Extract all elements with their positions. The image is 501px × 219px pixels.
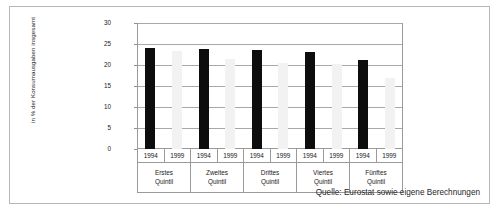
- y-tick-label: 30: [85, 19, 111, 26]
- bar-1994-viertes-quintil: [305, 52, 315, 149]
- x-axis-year-cell: 1994: [138, 149, 165, 162]
- bar-1999-drittes-quintil: [278, 63, 288, 149]
- bar-1999-viertes-quintil: [332, 64, 342, 149]
- x-axis-group-cell: ErstesQuintil: [138, 163, 191, 192]
- y-tick-label: 5: [85, 124, 111, 131]
- x-axis-group-label-line: Fünftes: [365, 169, 386, 178]
- bars-container: [137, 23, 403, 149]
- x-axis-group-label-line: Quintil: [155, 178, 173, 187]
- x-axis-group-label-line: Quintil: [314, 178, 332, 187]
- x-axis-group-label-line: Quintil: [208, 178, 226, 187]
- x-axis-group-label-line: Viertes: [313, 169, 333, 178]
- x-axis-year-cell: 1994: [297, 149, 324, 162]
- y-tick-label: 10: [85, 103, 111, 110]
- x-axis-year-cell: 1999: [218, 149, 245, 162]
- x-axis-group-label-line: Erstes: [155, 169, 173, 178]
- x-axis-year-cell: 1994: [191, 149, 218, 162]
- x-axis-year-cell: 1999: [271, 149, 298, 162]
- bar-chart: in % der Konsumausgaben insgesamt 051015…: [10, 7, 491, 205]
- bar-1994-fünftes-quintil: [358, 60, 368, 149]
- x-axis-label-band: 1994199919941999199419991994199919941999…: [137, 149, 403, 193]
- y-tick-label: 20: [85, 61, 111, 68]
- bar-1994-drittes-quintil: [252, 50, 262, 149]
- x-axis-group-label-line: Quintil: [367, 178, 385, 187]
- bar-1994-erstes-quintil: [145, 48, 155, 149]
- x-axis-year-row: 1994199919941999199419991994199919941999: [138, 149, 402, 163]
- x-axis-year-cell: 1994: [350, 149, 377, 162]
- x-axis-group-label-line: Quintil: [261, 178, 279, 187]
- figure-frame: in % der Konsumausgaben insgesamt 051015…: [9, 6, 490, 204]
- y-tick-label: 15: [85, 82, 111, 89]
- y-axis-title: in % der Konsumausgaben insgesamt: [26, 0, 40, 140]
- x-axis-year-cell: 1999: [165, 149, 192, 162]
- x-axis-group-label-line: Zweites: [206, 169, 228, 178]
- y-tick-label: 0: [85, 145, 111, 152]
- y-tick-label: 25: [85, 40, 111, 47]
- bar-1999-fünftes-quintil: [385, 78, 395, 149]
- bar-1999-zweites-quintil: [225, 59, 235, 149]
- x-axis-group-cell: ZweitesQuintil: [191, 163, 244, 192]
- x-axis-year-cell: 1999: [324, 149, 351, 162]
- x-axis-year-cell: 1994: [244, 149, 271, 162]
- bar-1999-erstes-quintil: [172, 51, 182, 149]
- source-note: Quelle: Eurostat sowie eigene Berechnung…: [316, 188, 480, 197]
- x-axis-group-label-line: Drittes: [261, 169, 279, 178]
- x-axis-group-cell: DrittesQuintil: [244, 163, 297, 192]
- bar-1994-zweites-quintil: [199, 49, 209, 149]
- x-axis-year-cell: 1999: [377, 149, 403, 162]
